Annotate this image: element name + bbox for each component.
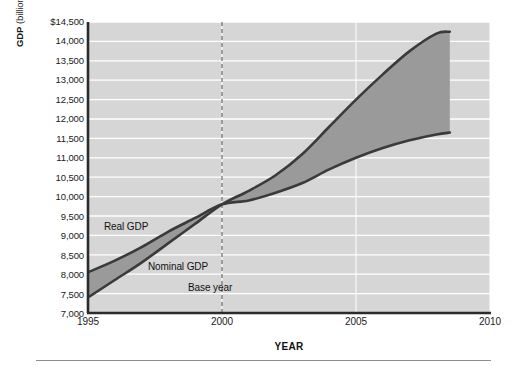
- annotation-nominal-gdp: Nominal GDP: [148, 261, 208, 272]
- annotation-real-gdp: Real GDP: [104, 221, 148, 232]
- x-tick-label: 2005: [345, 316, 367, 327]
- chart-figure: GDP (billions of dollars per year) $14,5…: [0, 0, 525, 371]
- x-tick-label: 2000: [211, 316, 233, 327]
- x-tick-label: 2010: [479, 316, 501, 327]
- x-axis-title: YEAR: [88, 341, 490, 352]
- footer-divider: [36, 360, 491, 361]
- annotation-base-year: Base year: [188, 282, 232, 293]
- x-tick-label: 1995: [77, 316, 99, 327]
